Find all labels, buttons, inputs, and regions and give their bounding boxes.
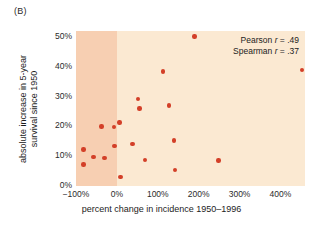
- x-tick-label: −100%: [63, 189, 90, 199]
- x-tick-label: 0%: [111, 189, 123, 199]
- x-tick-label: 400%: [270, 189, 292, 199]
- x-tick-label: 300%: [229, 189, 251, 199]
- x-axis-title: percent change in incidence 1950–1996: [0, 204, 323, 214]
- x-tick-label: 200%: [188, 189, 210, 199]
- figure-panel-b: (B) absolute increase in 5-year survival…: [0, 0, 323, 236]
- x-axis-ticks: −100%0%100%200%300%400%: [0, 0, 323, 236]
- x-tick-label: 100%: [147, 189, 169, 199]
